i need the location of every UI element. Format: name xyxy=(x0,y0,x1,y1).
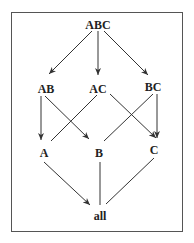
edge-abc-ab xyxy=(49,31,92,74)
edge-ac-a xyxy=(51,95,97,141)
edge-ac-c xyxy=(110,94,156,138)
edge-bc-b xyxy=(104,94,153,141)
edge-ab-b xyxy=(45,96,89,139)
node-c: C xyxy=(150,143,159,158)
lattice-edges xyxy=(0,0,194,243)
node-ab: AB xyxy=(38,82,55,97)
node-bc: BC xyxy=(145,80,162,95)
node-abc: ABC xyxy=(85,18,110,33)
node-a: A xyxy=(40,146,49,161)
node-all: all xyxy=(94,209,107,224)
node-b: B xyxy=(95,146,103,161)
edge-a-all xyxy=(44,162,90,205)
edge-c-all xyxy=(106,158,154,204)
node-ac: AC xyxy=(89,82,106,97)
edge-abc-bc xyxy=(104,31,148,75)
